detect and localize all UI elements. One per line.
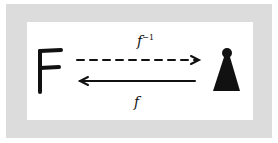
- pawn-icon: [213, 48, 240, 91]
- inverse-function-label: f−1: [137, 33, 154, 49]
- diagram-graphics: [0, 0, 278, 143]
- function-label: f: [134, 94, 139, 110]
- letter-f-node: [40, 50, 61, 92]
- solid-arrow-forward: [80, 77, 195, 85]
- dashed-arrow-inverse: [77, 56, 199, 64]
